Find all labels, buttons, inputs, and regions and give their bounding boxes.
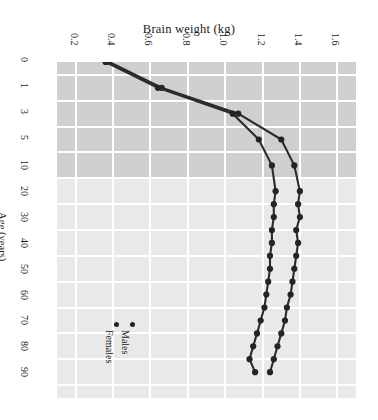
data-point xyxy=(271,201,277,207)
data-point xyxy=(258,317,264,323)
x-tick-label: 1.2 xyxy=(256,33,267,46)
data-point xyxy=(267,253,273,259)
data-point xyxy=(246,356,252,362)
data-point xyxy=(250,343,256,349)
data-point xyxy=(271,356,277,362)
data-point xyxy=(267,266,273,272)
y-tick-label: 60 xyxy=(19,290,30,300)
y-tick-label: 3 xyxy=(19,109,30,114)
y-tick-label: 20 xyxy=(19,186,30,196)
data-point xyxy=(274,343,280,349)
data-point xyxy=(269,227,275,233)
data-point xyxy=(295,201,301,207)
data-point xyxy=(293,253,299,259)
data-point xyxy=(230,111,236,117)
data-point xyxy=(271,214,277,220)
legend-label-males: Males xyxy=(120,330,131,354)
series-layer xyxy=(57,62,356,398)
x-tick-label: 0.4 xyxy=(106,33,117,46)
data-point xyxy=(288,292,294,298)
data-point xyxy=(252,369,258,375)
y-tick-label: 10 xyxy=(19,160,30,170)
data-point xyxy=(265,279,271,285)
data-point xyxy=(269,162,275,168)
data-point xyxy=(297,214,303,220)
plot-area xyxy=(57,62,356,398)
data-point xyxy=(254,330,260,336)
data-point xyxy=(273,188,279,194)
x-tick-label: 1.6 xyxy=(330,33,341,46)
data-point xyxy=(155,85,161,91)
y-tick-label: 5 xyxy=(19,135,30,140)
legend-dot-icon xyxy=(114,322,119,327)
y-tick-label: 90 xyxy=(19,367,30,377)
x-tick-label: 0.8 xyxy=(181,33,192,46)
data-point xyxy=(291,266,297,272)
y-tick-label: 0 xyxy=(19,57,30,62)
data-point xyxy=(263,292,269,298)
y-tick-label: 80 xyxy=(19,341,30,351)
data-point xyxy=(295,240,301,246)
data-point xyxy=(289,279,295,285)
x-tick-label: 0.6 xyxy=(143,33,154,46)
data-point xyxy=(256,136,262,142)
x-tick-label: 0.2 xyxy=(69,33,80,46)
legend-label-females: Females xyxy=(104,330,115,363)
data-point xyxy=(278,330,284,336)
x-tick-label: 1.4 xyxy=(293,33,304,46)
data-point xyxy=(293,227,299,233)
data-point xyxy=(278,136,284,142)
data-point xyxy=(297,188,303,194)
y-tick-label: 1 xyxy=(19,83,30,88)
data-point xyxy=(261,304,267,310)
y-tick-label: 70 xyxy=(19,315,30,325)
x-tick-label: 1.0 xyxy=(218,33,229,46)
y-tick-label: 50 xyxy=(19,264,30,274)
legend-dot-icon xyxy=(130,322,135,327)
data-point xyxy=(284,304,290,310)
data-point xyxy=(282,317,288,323)
y-tick-label: 30 xyxy=(19,212,30,222)
data-point xyxy=(267,369,273,375)
chart-root: Brain weight (kg) 0.20.40.60.81.01.21.41… xyxy=(0,0,378,420)
y-axis-title: Age (years) xyxy=(0,212,8,261)
y-tick-label: 40 xyxy=(19,238,30,248)
data-point xyxy=(291,162,297,168)
data-point xyxy=(269,240,275,246)
